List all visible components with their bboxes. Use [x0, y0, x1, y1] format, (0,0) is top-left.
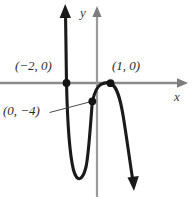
- y-axis-arrowhead: [92, 6, 101, 17]
- point-marker-right-intercept: [107, 79, 115, 87]
- curve-down-arrowhead: [128, 176, 139, 191]
- graph-figure: y x (−2, 0) (1, 0) (0, −4): [0, 0, 196, 197]
- point-marker-left-intercept: [63, 79, 71, 87]
- curve-up-arrowhead: [60, 4, 71, 18]
- label-x-intercept-right: (1, 0): [112, 59, 140, 72]
- label-x-intercept-left: (−2, 0): [15, 59, 52, 72]
- x-axis-label: x: [174, 90, 180, 103]
- label-y-intercept: (0, −4): [3, 104, 40, 117]
- y-intercept-leader-line: [50, 102, 92, 113]
- x-axis-arrowhead: [177, 78, 188, 88]
- y-axis-label: y: [80, 6, 86, 19]
- cubic-curve: [66, 12, 133, 180]
- coordinate-plane: [0, 0, 196, 197]
- point-marker-y-intercept: [88, 97, 96, 105]
